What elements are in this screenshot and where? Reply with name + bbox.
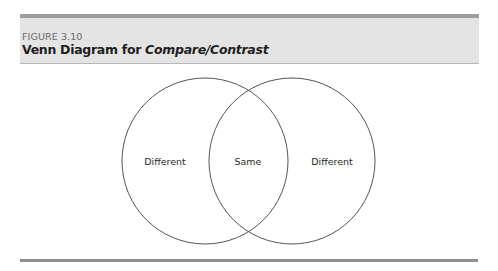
venn-label-right: Different bbox=[311, 156, 353, 167]
venn-label-center: Same bbox=[235, 156, 262, 167]
bottom-rule bbox=[20, 259, 478, 262]
venn-label-left: Different bbox=[144, 156, 186, 167]
venn-diagram: Different Same Different bbox=[0, 0, 498, 271]
